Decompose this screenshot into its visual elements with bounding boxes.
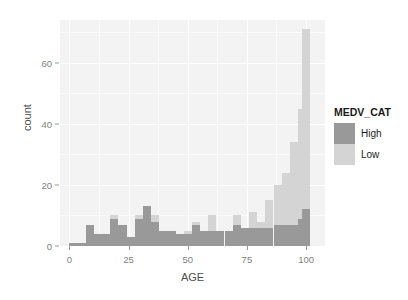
- histogram-bar: [184, 231, 192, 246]
- y-tick-label: 60: [26, 57, 52, 68]
- legend-label: High: [361, 128, 382, 139]
- bar-segment-low: [282, 173, 290, 225]
- bar-segment-low: [265, 200, 273, 227]
- bar-segment-high: [135, 219, 143, 246]
- histogram-bar: [282, 173, 290, 246]
- gridline-vertical: [247, 20, 248, 246]
- x-tick-mark: [129, 246, 130, 250]
- bar-segment-high: [192, 225, 200, 246]
- histogram-bar: [274, 185, 282, 246]
- histogram-bar: [176, 234, 184, 246]
- bar-segment-high: [118, 225, 126, 246]
- histogram-bar: [151, 215, 159, 246]
- legend-title: MEDV_CAT: [334, 106, 391, 118]
- bar-segment-low: [257, 222, 265, 228]
- histogram-bar: [257, 222, 265, 246]
- y-axis-ticks: [26, 0, 52, 300]
- x-tick-mark: [69, 246, 70, 250]
- x-tick-label: 75: [227, 254, 267, 265]
- histogram-bar: [94, 234, 102, 246]
- gridline-vertical-minor: [217, 20, 218, 246]
- histogram-bar: [127, 237, 135, 246]
- plot-panel: [60, 20, 325, 246]
- legend-label: Low: [361, 149, 379, 160]
- y-tick-mark: [55, 184, 59, 185]
- bar-segment-high: [151, 222, 159, 246]
- y-tick-label: 0: [26, 241, 52, 252]
- y-tick-label: 40: [26, 118, 52, 129]
- bar-segment-low: [302, 29, 310, 209]
- chart-container: count AGE MEDV_CAT HighLow 0204060025507…: [0, 0, 408, 300]
- histogram-bar: [249, 212, 257, 246]
- legend-items: HighLow: [334, 123, 391, 165]
- bar-segment-high: [110, 219, 118, 246]
- bar-segment-high: [176, 234, 184, 246]
- bar-segment-low: [233, 215, 241, 224]
- histogram-bar: [118, 225, 126, 246]
- bar-segment-high: [208, 231, 216, 246]
- bar-segment-high: [102, 234, 110, 246]
- y-tick-mark: [55, 246, 59, 247]
- legend-item-high: High: [334, 123, 391, 144]
- bar-segment-low: [290, 142, 298, 224]
- histogram-bar: [290, 142, 298, 246]
- x-tick-label: 50: [168, 254, 208, 265]
- x-tick-label: 25: [109, 254, 149, 265]
- gridline-vertical: [129, 20, 130, 246]
- histogram-bar: [208, 215, 216, 246]
- bar-segment-high: [200, 231, 208, 246]
- bar-segment-high: [249, 228, 257, 246]
- bar-segment-high: [127, 237, 135, 246]
- histogram-bar: [69, 243, 77, 246]
- bar-segment-high: [265, 228, 273, 246]
- bar-segment-low: [192, 222, 200, 225]
- bar-segment-low: [249, 212, 257, 227]
- bar-segment-high: [159, 231, 167, 246]
- x-axis-title: AGE: [60, 271, 325, 283]
- bar-segment-low: [274, 185, 282, 225]
- bar-segment-high: [302, 209, 310, 246]
- histogram-bar: [302, 29, 310, 246]
- histogram-bar: [200, 231, 208, 246]
- y-tick-mark: [55, 123, 59, 124]
- y-tick-label: 20: [26, 179, 52, 190]
- gridline-vertical-minor: [99, 20, 100, 246]
- histogram-bar: [86, 225, 94, 246]
- bar-segment-high: [290, 225, 298, 246]
- bar-segment-low: [184, 231, 192, 234]
- bar-segment-high: [167, 231, 175, 246]
- bar-segment-high: [282, 225, 290, 246]
- bar-segment-high: [225, 231, 233, 246]
- histogram-bar: [159, 231, 167, 246]
- bar-segment-high: [143, 206, 151, 246]
- histogram-bar: [216, 231, 224, 246]
- histogram-bar: [102, 234, 110, 246]
- x-tick-mark: [306, 246, 307, 250]
- x-tick-label: 100: [286, 254, 326, 265]
- legend-swatch-high: [334, 123, 355, 144]
- gridline-vertical: [188, 20, 189, 246]
- histogram-bar: [192, 222, 200, 246]
- histogram-bar: [167, 231, 175, 246]
- bar-segment-high: [274, 225, 282, 246]
- x-tick-mark: [188, 246, 189, 250]
- bar-segment-low: [208, 215, 216, 230]
- gridline-vertical-minor: [158, 20, 159, 246]
- legend: MEDV_CAT HighLow: [334, 106, 391, 165]
- x-tick-mark: [247, 246, 248, 250]
- legend-item-low: Low: [334, 144, 391, 165]
- gridline-vertical: [69, 20, 70, 246]
- bar-segment-high: [78, 243, 86, 246]
- bar-segment-high: [241, 228, 249, 246]
- histogram-bar: [225, 231, 233, 246]
- bar-segment-high: [216, 231, 224, 246]
- histogram-bar: [78, 243, 86, 246]
- bar-segment-high: [257, 228, 265, 246]
- bar-segment-low: [110, 215, 118, 218]
- bar-segment-low: [151, 215, 159, 221]
- bar-segment-high: [86, 225, 94, 246]
- x-tick-label: 0: [49, 254, 89, 265]
- bar-segment-low: [135, 215, 143, 218]
- histogram-bar: [265, 200, 273, 246]
- bar-segment-high: [233, 225, 241, 246]
